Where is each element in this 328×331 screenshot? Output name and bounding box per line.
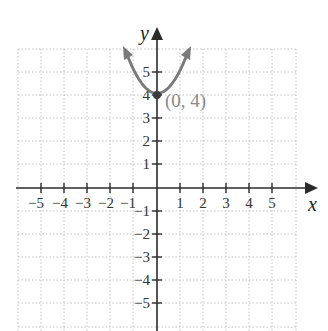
coordinate-plane: −5 −4 −3 −2 −1 1 2 3 4 5 5 4 3 2 1 −1 −2… (0, 0, 328, 331)
x-tick-label: 5 (268, 195, 276, 211)
y-axis-arrow-icon (151, 27, 163, 40)
y-tick-label: −2 (134, 226, 150, 242)
x-tick-label: 2 (199, 195, 207, 211)
x-tick-label: −4 (52, 195, 68, 211)
vertex-label: (0, 4) (165, 90, 206, 112)
vertex-point (153, 91, 161, 99)
y-tick-label: 3 (143, 110, 151, 126)
y-tick-label: −4 (134, 272, 150, 288)
x-axis-label: x (307, 193, 317, 215)
x-tick-label: 1 (176, 195, 184, 211)
x-tick-label: −3 (75, 195, 91, 211)
y-axis-label: y (138, 22, 149, 45)
y-tick-label: 5 (143, 64, 151, 80)
y-tick-label: −1 (134, 203, 150, 219)
y-tick-label: 1 (143, 156, 151, 172)
x-tick-label: 4 (245, 195, 253, 211)
y-tick-label: −3 (134, 249, 150, 265)
y-tick-label: −5 (134, 295, 150, 311)
y-tick-label: 2 (143, 133, 151, 149)
axes (16, 34, 310, 331)
x-tick-label: 3 (222, 195, 230, 211)
x-tick-label: −5 (28, 195, 44, 211)
x-tick-labels: −5 −4 −3 −2 −1 1 2 3 4 5 (28, 195, 276, 211)
x-tick-label: −2 (98, 195, 114, 211)
